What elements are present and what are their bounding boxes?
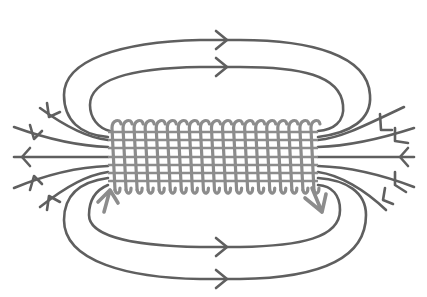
arrow-left-icon [47, 103, 60, 117]
solenoid-field-diagram: Magnetic field lines around a current-ca… [0, 0, 427, 297]
right-end-field-lines [318, 107, 414, 210]
coil-turn-bottom [137, 188, 142, 193]
coil-turn-bottom [115, 188, 120, 193]
coil-turn-bottom [270, 188, 275, 193]
coil-turn-bottom [292, 188, 297, 193]
coil-turn-bottom [192, 188, 197, 193]
arrow-left-icon [30, 125, 42, 139]
coil-turn-bottom [214, 188, 219, 193]
coil-turn-bottom [181, 188, 186, 193]
outer-top-loop [64, 40, 370, 137]
coil-turn-bottom [237, 188, 242, 193]
coil-turn-bottom [259, 188, 264, 193]
coil-turn-bottom [203, 188, 208, 193]
arrow-left-icon [47, 196, 60, 210]
coil-turn-bottom [159, 188, 164, 193]
coil-turn-bottom [226, 188, 231, 193]
diagram-canvas [0, 0, 427, 297]
right-field-line-5 [318, 172, 386, 210]
left-field-line-4 [14, 166, 108, 188]
coil-turn-bottom [170, 188, 175, 193]
inner-bottom-loop [89, 185, 340, 247]
coil-turn-bottom [248, 188, 253, 193]
coil-turn-bottom [126, 188, 131, 193]
arrow-left-icon [383, 188, 393, 204]
coil-turn-bottom [148, 188, 153, 193]
coil-turn-bottom [281, 188, 286, 193]
coil-turn-bottom [303, 188, 308, 193]
